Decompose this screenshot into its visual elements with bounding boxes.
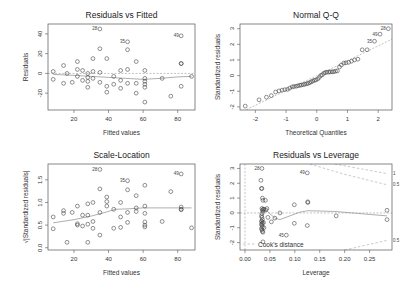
x-tick-label: 2 <box>377 116 381 122</box>
data-point <box>373 39 377 43</box>
y-tick-label: -1 <box>229 88 235 94</box>
data-point <box>51 227 55 231</box>
data-point <box>292 203 296 207</box>
point-label: 28 <box>92 167 98 172</box>
y-tick-label: 1 <box>229 58 235 62</box>
cooks-distance-contour <box>310 164 387 185</box>
x-tick-label: 80 <box>174 116 181 122</box>
normal-qq-panel: Normal Q-Q-2-1012-2-10123Theoretical Qua… <box>214 10 392 137</box>
data-point <box>76 60 80 64</box>
x-tick-label: 40 <box>105 256 112 262</box>
point-label: 35 <box>120 39 126 44</box>
plot-frame <box>240 24 392 110</box>
y-tick-label: 3 <box>229 26 235 30</box>
data-point <box>143 183 147 187</box>
x-tick-label: 0.00 <box>239 256 251 262</box>
data-point <box>51 70 55 74</box>
data-point <box>305 224 309 228</box>
y-axis-label: Standardized residuals <box>214 173 221 240</box>
data-point <box>126 220 130 224</box>
y-tick-label: -20 <box>37 88 43 97</box>
data-point <box>160 220 164 224</box>
data-point <box>119 78 123 82</box>
panel-title: Residuals vs Leverage <box>273 150 359 160</box>
y-tick-label: 0 <box>229 73 235 77</box>
x-tick-label: 40 <box>105 116 112 122</box>
data-point <box>169 190 173 194</box>
data-point <box>70 80 74 84</box>
smoother-line <box>53 74 191 79</box>
data-point <box>105 200 109 204</box>
data-point <box>62 211 66 215</box>
data-point <box>119 215 123 219</box>
data-point <box>112 82 116 86</box>
data-point <box>134 210 138 214</box>
data-point <box>91 70 95 74</box>
data-point <box>305 171 309 175</box>
data-point <box>98 233 102 237</box>
x-axis-label: Leverage <box>302 269 329 277</box>
data-point <box>81 78 85 82</box>
x-tick-label: 0.15 <box>314 256 326 262</box>
point-label: 28 <box>381 26 387 31</box>
point-label: 28 <box>254 166 260 171</box>
x-tick-label: 0.25 <box>364 256 376 262</box>
residuals-vs-leverage-panel: Residuals vs Leverage0.000.050.100.150.2… <box>214 150 400 277</box>
data-point <box>143 211 147 215</box>
data-point <box>134 81 138 85</box>
data-point <box>292 221 296 225</box>
data-point <box>243 104 247 108</box>
point-label: 28 <box>92 26 98 31</box>
y-tick-label: -1 <box>229 224 235 230</box>
y-tick-label: 1 <box>229 196 235 200</box>
y-tick-label: 20 <box>37 50 43 57</box>
data-point <box>81 224 85 228</box>
x-axis-label: Theoretical Quantiles <box>285 129 347 137</box>
data-point <box>143 69 147 73</box>
data-point <box>257 98 261 102</box>
x-tick-label: 0.05 <box>264 256 276 262</box>
point-label: 49 <box>174 33 180 38</box>
data-point <box>169 94 173 98</box>
smoother-line <box>53 208 191 223</box>
data-point <box>179 62 183 66</box>
diagnostic-plots: Residuals vs Fitted20406080-2002040Fitte… <box>0 0 405 289</box>
data-point <box>190 226 194 230</box>
cooks-level-label: 1 <box>393 171 396 176</box>
data-point <box>105 90 109 94</box>
data-point <box>76 68 80 72</box>
point-label: 49 <box>300 170 306 175</box>
data-point <box>179 34 183 38</box>
data-point <box>134 91 138 95</box>
data-point <box>119 69 123 73</box>
data-point <box>260 167 264 171</box>
data-point <box>112 226 116 230</box>
point-label: 35 <box>367 39 373 44</box>
x-tick-label: 0.10 <box>289 256 301 262</box>
data-point <box>105 57 109 61</box>
data-point <box>62 81 66 85</box>
data-point <box>386 27 390 31</box>
x-axis-label: Fitted values <box>103 269 141 276</box>
data-point <box>360 48 364 52</box>
y-tick-label: 2 <box>229 42 235 46</box>
data-point <box>105 204 109 208</box>
data-point <box>86 202 90 206</box>
y-tick-label: 0.5 <box>37 220 43 229</box>
data-point <box>98 187 102 191</box>
data-point <box>81 69 85 73</box>
cooks-level-label: 0.5 <box>393 238 400 243</box>
data-point <box>126 40 130 44</box>
y-tick-label: -2 <box>229 239 235 245</box>
data-point <box>86 240 90 244</box>
point-label: 35 <box>120 178 126 183</box>
data-point <box>126 179 130 183</box>
data-point <box>334 214 338 218</box>
data-point <box>134 194 138 198</box>
x-tick-label: -2 <box>253 116 259 122</box>
data-point <box>86 85 90 89</box>
x-tick-label: 20 <box>71 116 78 122</box>
scale-location-panel: Scale-Location204060800.00.51.01.5Fitted… <box>22 150 195 276</box>
data-point <box>65 240 69 244</box>
x-tick-label: 60 <box>140 116 147 122</box>
